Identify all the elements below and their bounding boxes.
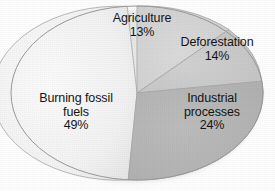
pie-chart-figure: Agriculture 13% Deforestation 14% Indust… (0, 0, 275, 191)
pie-label-industrial-processes-value: 24% (166, 119, 258, 133)
pie-label-burning-fossil-fuels-name-line1: Burning fossil (24, 92, 128, 106)
pie-label-burning-fossil-fuels-value: 49% (24, 119, 128, 133)
pie-label-industrial-processes-name-line2: processes (166, 106, 258, 120)
pie-label-agriculture-name: Agriculture (94, 12, 190, 26)
pie-label-industrial-processes-name-line1: Industrial (166, 92, 258, 106)
pie-label-deforestation-value: 14% (160, 50, 274, 64)
pie-label-industrial-processes: Industrial processes 24% (166, 92, 258, 133)
pie-label-deforestation-name: Deforestation (160, 36, 274, 50)
pie-label-burning-fossil-fuels: Burning fossil fuels 49% (24, 92, 128, 133)
pie-label-agriculture: Agriculture 13% (94, 12, 190, 39)
pie-label-burning-fossil-fuels-name-line2: fuels (24, 106, 128, 120)
pie-label-deforestation: Deforestation 14% (160, 36, 274, 63)
